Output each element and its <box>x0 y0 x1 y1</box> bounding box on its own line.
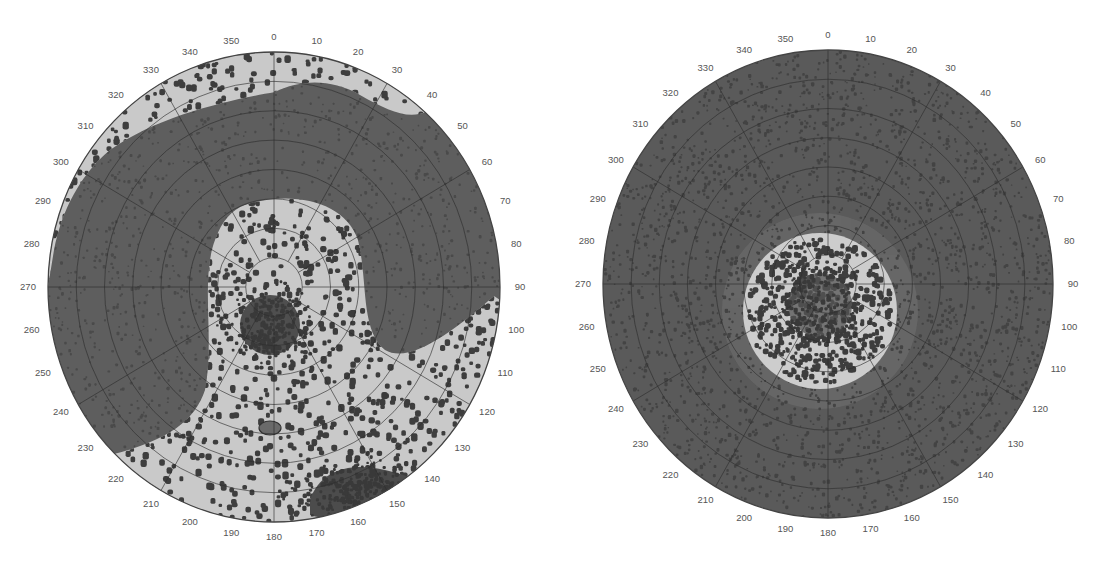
angular-tick-label: 100 <box>508 324 524 335</box>
angular-tick-label: 200 <box>736 512 752 523</box>
angular-tick-label: 310 <box>78 120 94 131</box>
angular-tick-label: 350 <box>778 33 794 44</box>
angular-tick-label: 190 <box>778 523 794 534</box>
angular-tick-label: 110 <box>498 367 513 378</box>
angular-tick-label: 30 <box>945 62 956 73</box>
angular-tick-label: 300 <box>608 154 624 165</box>
angular-tick-label: 180 <box>820 527 836 538</box>
angular-tick-label: 260 <box>24 324 40 335</box>
left-small-blob <box>259 421 281 435</box>
angular-tick-label: 100 <box>1061 321 1077 332</box>
angular-tick-label: 260 <box>579 321 595 332</box>
angular-tick-label: 230 <box>78 442 94 453</box>
angular-tick-label: 70 <box>500 195 511 206</box>
angular-tick-label: 110 <box>1051 363 1066 374</box>
angular-tick-label: 0 <box>825 29 830 40</box>
angular-tick-label: 80 <box>1064 235 1075 246</box>
angular-tick-label: 50 <box>457 120 468 131</box>
angular-tick-label: 330 <box>698 62 714 73</box>
angular-tick-label: 280 <box>579 235 595 246</box>
angular-tick-label: 170 <box>863 523 879 534</box>
angular-tick-label: 290 <box>590 193 606 204</box>
angular-tick-label: 240 <box>608 403 624 414</box>
angular-tick-label: 120 <box>479 406 495 417</box>
angular-tick-label: 350 <box>223 35 239 46</box>
angular-tick-label: 340 <box>736 44 752 55</box>
angular-tick-label: 50 <box>1010 118 1021 129</box>
angular-tick-label: 30 <box>392 64 403 75</box>
angular-tick-label: 230 <box>632 438 648 449</box>
angular-tick-label: 160 <box>350 516 366 527</box>
angular-tick-label: 60 <box>1035 154 1046 165</box>
angular-tick-label: 120 <box>1032 403 1048 414</box>
angular-tick-label: 290 <box>35 195 51 206</box>
angular-tick-label: 20 <box>907 44 918 55</box>
angular-tick-label: 220 <box>663 469 679 480</box>
right-polar-plot: 0102030405060708090100110120130140150160… <box>575 29 1078 538</box>
polar-figure: 0102030405060708090100110120130140150160… <box>0 0 1101 561</box>
angular-tick-label: 130 <box>1008 438 1024 449</box>
angular-tick-label: 310 <box>632 118 648 129</box>
angular-tick-label: 130 <box>455 442 471 453</box>
angular-tick-label: 160 <box>904 512 920 523</box>
angular-tick-label: 150 <box>389 498 405 509</box>
angular-tick-label: 330 <box>143 64 159 75</box>
angular-tick-label: 90 <box>1068 278 1079 289</box>
angular-tick-label: 10 <box>311 35 322 46</box>
angular-tick-label: 180 <box>266 531 282 542</box>
angular-tick-label: 0 <box>271 31 276 42</box>
left-polar-plot: 0102030405060708090100110120130140150160… <box>20 31 525 542</box>
angular-tick-label: 280 <box>24 238 40 249</box>
angular-tick-label: 320 <box>663 87 679 98</box>
angular-tick-label: 220 <box>108 473 124 484</box>
angular-tick-label: 210 <box>143 498 159 509</box>
angular-tick-label: 60 <box>482 156 493 167</box>
angular-tick-label: 240 <box>53 406 69 417</box>
angular-tick-label: 200 <box>182 516 198 527</box>
angular-tick-label: 320 <box>108 89 124 100</box>
angular-tick-label: 90 <box>515 281 526 292</box>
angular-tick-label: 140 <box>424 473 440 484</box>
angular-tick-label: 250 <box>35 367 51 378</box>
angular-tick-label: 270 <box>20 281 36 292</box>
angular-tick-label: 150 <box>943 494 959 505</box>
angular-tick-label: 70 <box>1053 193 1064 204</box>
angular-tick-label: 170 <box>309 527 325 538</box>
angular-tick-label: 270 <box>575 278 591 289</box>
angular-tick-label: 250 <box>590 363 606 374</box>
angular-tick-label: 40 <box>980 87 991 98</box>
angular-tick-label: 10 <box>865 33 876 44</box>
angular-tick-label: 300 <box>53 156 69 167</box>
angular-tick-label: 340 <box>182 46 198 57</box>
angular-tick-label: 210 <box>698 494 714 505</box>
angular-tick-label: 40 <box>427 89 438 100</box>
angular-tick-label: 20 <box>353 46 364 57</box>
angular-tick-label: 140 <box>978 469 994 480</box>
angular-tick-label: 190 <box>223 527 239 538</box>
angular-tick-label: 80 <box>511 238 522 249</box>
